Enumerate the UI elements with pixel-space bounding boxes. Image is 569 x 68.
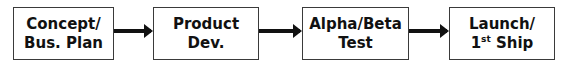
step-label-line1: Launch/ [469, 15, 535, 34]
step-concept-bus-plan: Concept/ Bus. Plan [13, 7, 114, 60]
step-product-dev: Product Dev. [153, 7, 259, 60]
arrow-right-icon [114, 29, 151, 33]
step-label-line1: Concept/ [26, 15, 100, 34]
step-label-line2: Dev. [188, 34, 225, 53]
arrow-right-icon [259, 29, 300, 33]
step-launch-first-ship: Launch/ 1st Ship [449, 7, 555, 60]
step-label-line2: Bus. Plan [24, 34, 103, 53]
arrow-right-icon [409, 29, 447, 33]
ordinal-number: 1 [471, 34, 481, 52]
step-label-line2: Test [338, 34, 373, 53]
step-label-line2: 1st Ship [471, 34, 534, 53]
step-label-word: Ship [491, 34, 534, 52]
step-label-line1: Alpha/Beta [309, 15, 402, 34]
step-alpha-beta-test: Alpha/Beta Test [302, 7, 409, 60]
ordinal-suffix: st [481, 34, 491, 44]
step-label-line1: Product [173, 15, 239, 34]
